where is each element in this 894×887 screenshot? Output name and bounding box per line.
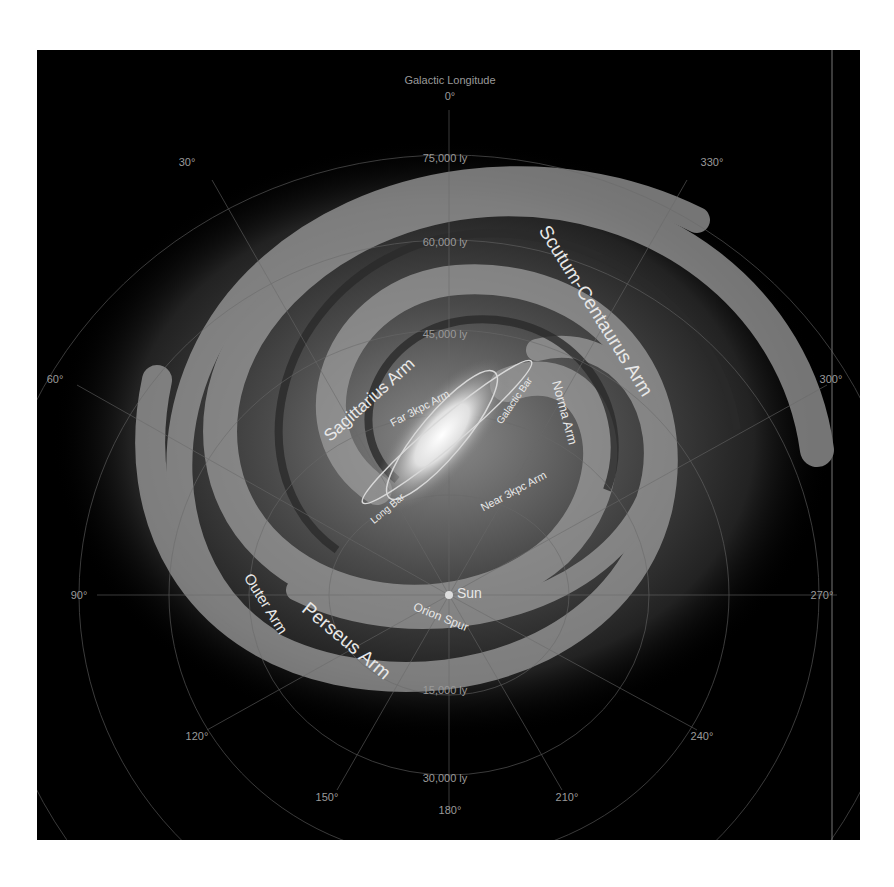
longitude-label: 300° <box>820 373 843 385</box>
axis-title: Galactic Longitude <box>404 74 495 86</box>
longitude-label: 60° <box>47 373 64 385</box>
sun-marker <box>445 591 453 599</box>
longitude-label: 180° <box>439 804 462 816</box>
longitude-label: 30° <box>179 156 196 168</box>
label-sun: Sun <box>457 585 482 601</box>
galaxy-illustration <box>37 50 860 840</box>
galaxy-map-panel: Galactic Longitude 0° 30° 330° 60° 300° … <box>37 50 860 840</box>
longitude-label: 270° <box>811 589 834 601</box>
distance-label: 30,000 ly <box>423 772 468 784</box>
longitude-label: 90° <box>71 589 88 601</box>
distance-label: 15,000 ly <box>423 684 468 696</box>
longitude-label: 330° <box>701 156 724 168</box>
longitude-label: 150° <box>316 791 339 803</box>
longitude-label: 0° <box>445 90 456 102</box>
distance-label: 75,000 ly <box>423 152 468 164</box>
distance-label: 60,000 ly <box>423 236 468 248</box>
longitude-label: 240° <box>691 730 714 742</box>
distance-label: 45,000 ly <box>423 328 468 340</box>
longitude-label: 120° <box>186 730 209 742</box>
longitude-label: 210° <box>556 791 579 803</box>
